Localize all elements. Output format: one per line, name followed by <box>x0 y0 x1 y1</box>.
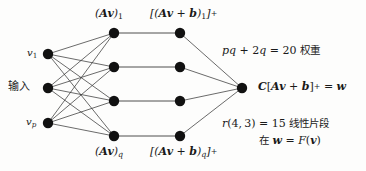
hidden-node <box>109 28 119 38</box>
edge-input-to-hidden <box>48 33 114 54</box>
edge-input-to-hidden <box>48 123 114 136</box>
edge-input-to-hidden <box>48 33 114 88</box>
edge-input-to-hidden <box>48 101 114 123</box>
label-input-last: vp <box>26 117 36 128</box>
label-bottom-right-column: [(Av + b)q]+ <box>150 146 217 159</box>
hidden-node <box>109 96 119 106</box>
annotation-linear-pieces: r(4, 3) = 15 线性片段 <box>222 118 329 129</box>
edge-relu-to-output <box>180 67 242 88</box>
input-node <box>43 83 53 93</box>
relu-node <box>175 96 185 106</box>
label-input-first: v1 <box>27 48 37 59</box>
edge-input-to-hidden <box>48 88 114 101</box>
label-top-left-column: (Av)1 <box>95 8 123 21</box>
edge-relu-to-output <box>180 88 242 101</box>
label-input-word: 输入 <box>8 81 30 92</box>
annotation-linear-pieces-detail: 在 w = F(v) <box>259 135 321 146</box>
edge-group-input-to-hidden <box>48 33 114 136</box>
output-node <box>237 83 247 93</box>
annotation-output-expression: C[Av + b]+ = w <box>258 81 346 92</box>
edge-relu-to-output <box>180 33 242 88</box>
hidden-node <box>109 62 119 72</box>
input-node <box>43 49 53 59</box>
label-top-right-column: [(Av + b)1]+ <box>150 8 217 21</box>
annotation-weight-count: pq + 2q = 20 权重 <box>222 45 320 56</box>
hidden-node <box>109 131 119 141</box>
node-group <box>43 28 247 141</box>
relu-node <box>175 28 185 38</box>
edge-group-hidden-to-relu <box>114 33 180 136</box>
input-node <box>43 118 53 128</box>
relu-node <box>175 131 185 141</box>
relu-node <box>175 62 185 72</box>
label-bottom-left-column: (Av)q <box>95 146 123 159</box>
edge-input-to-hidden <box>48 33 114 123</box>
